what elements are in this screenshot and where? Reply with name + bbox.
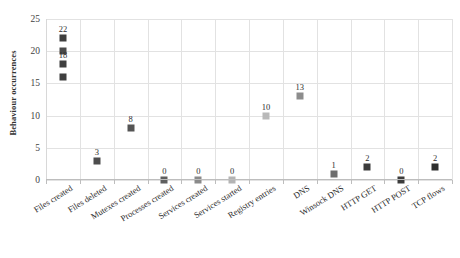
data-point-label: 10 bbox=[262, 102, 271, 111]
data-point-label: 0 bbox=[162, 167, 166, 176]
y-axis-tick-label: 20 bbox=[31, 46, 41, 56]
x-axis-label-text: DNS bbox=[291, 183, 311, 201]
data-point-marker bbox=[59, 61, 66, 68]
x-axis-label-text: TCP flows bbox=[410, 183, 446, 211]
gridline-vertical bbox=[249, 19, 250, 180]
y-axis-tick-label: 10 bbox=[31, 111, 41, 121]
data-point-label: 0 bbox=[230, 167, 234, 176]
data-point-marker bbox=[59, 35, 66, 42]
gridline-vertical bbox=[452, 19, 453, 180]
data-point-label: 2 bbox=[365, 154, 369, 163]
data-point-label: 13 bbox=[296, 83, 305, 92]
gridline-vertical bbox=[351, 19, 352, 180]
data-point-label: 1 bbox=[331, 160, 335, 169]
gridline-vertical bbox=[317, 19, 318, 180]
gridline-vertical bbox=[418, 19, 419, 180]
y-axis-tick-label: 0 bbox=[35, 175, 40, 185]
x-axis-category-label: TCP flows bbox=[410, 183, 446, 211]
data-point-marker bbox=[330, 170, 337, 177]
y-axis-tick-label: 5 bbox=[35, 143, 40, 153]
data-point-marker bbox=[262, 112, 269, 119]
x-axis-tick-mark bbox=[452, 180, 453, 184]
y-axis-tick-label: 15 bbox=[31, 78, 41, 88]
data-point-marker bbox=[59, 73, 66, 80]
data-point-label: 18 bbox=[59, 51, 68, 60]
gridline-vertical bbox=[283, 19, 284, 180]
x-axis-category-label: DNS bbox=[291, 183, 311, 201]
behaviour-occurrences-chart: Behaviour occurrences 0510152025 2218380… bbox=[0, 0, 460, 258]
data-point-marker bbox=[364, 164, 371, 171]
gridline-vertical bbox=[114, 19, 115, 180]
data-point-label: 8 bbox=[128, 115, 132, 124]
y-axis-line bbox=[46, 19, 47, 180]
data-point-label: 2 bbox=[433, 154, 437, 163]
gridline-vertical bbox=[148, 19, 149, 180]
data-point-marker bbox=[432, 164, 439, 171]
data-point-marker bbox=[93, 157, 100, 164]
data-point-marker bbox=[127, 125, 134, 132]
data-point-label: 22 bbox=[59, 25, 68, 34]
y-axis-tick-label: 25 bbox=[31, 14, 41, 24]
plot-area: 0510152025 22183800010131202 bbox=[46, 19, 452, 180]
y-axis-title: Behaviour occurrences bbox=[8, 33, 18, 153]
data-point-marker bbox=[296, 93, 303, 100]
gridline-vertical bbox=[181, 19, 182, 180]
data-point-label: 0 bbox=[399, 167, 403, 176]
gridline-vertical bbox=[384, 19, 385, 180]
x-axis-category-labels: Files createdFiles deletedMutexes create… bbox=[46, 180, 452, 258]
data-point-label: 3 bbox=[95, 147, 99, 156]
gridline-vertical bbox=[215, 19, 216, 180]
gridline-vertical bbox=[80, 19, 81, 180]
data-point-label: 0 bbox=[196, 167, 200, 176]
